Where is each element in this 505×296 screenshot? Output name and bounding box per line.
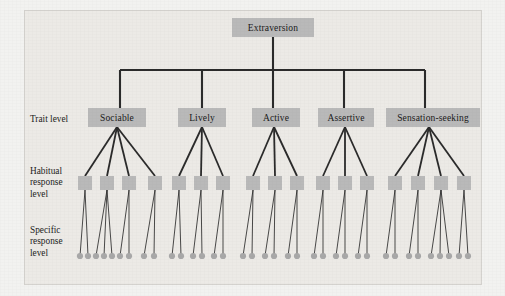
- specific-response-dot-4-1-1: [415, 253, 421, 259]
- specific-response-dot-0-2-0: [117, 253, 123, 259]
- node-habitual-response-3-0[interactable]: [316, 176, 330, 190]
- habitual-0-0-specific-link-1: [85, 190, 88, 256]
- specific-response-dot-3-2-1: [364, 253, 370, 259]
- specific-response-dot-4-0-1: [392, 253, 398, 259]
- specific-response-dot-1-1-0: [190, 253, 196, 259]
- node-habitual-response-3-2[interactable]: [360, 176, 374, 190]
- specific-response-dot-1-1-1: [199, 253, 205, 259]
- node-habitual-response-4-0[interactable]: [388, 176, 402, 190]
- specific-response-dot-0-1-2: [109, 253, 115, 259]
- habitual-0-1-specific-link-2: [107, 190, 112, 256]
- node-habitual-response-2-0[interactable]: [246, 176, 260, 190]
- habitual-2-1-specific-link-0: [265, 190, 275, 256]
- habitual-4-0-specific-link-0: [386, 190, 395, 256]
- trait-3-habitual-link-0: [323, 127, 345, 176]
- habitual-3-2-specific-link-0: [358, 190, 367, 256]
- node-habitual-response-0-0[interactable]: [78, 176, 92, 190]
- specific-response-dot-0-3-1: [151, 253, 157, 259]
- node-trait-sensation-seeking[interactable]: Sensation-seeking: [386, 108, 480, 127]
- specific-response-dot-4-1-0: [406, 253, 412, 259]
- habitual-3-1-specific-link-0: [336, 190, 345, 256]
- trait-2-habitual-link-1: [274, 127, 275, 176]
- node-habitual-response-1-0[interactable]: [172, 176, 186, 190]
- specific-response-dot-4-2-2: [446, 253, 452, 259]
- node-habitual-response-1-2[interactable]: [216, 176, 230, 190]
- habitual-4-3-specific-link-1: [464, 190, 468, 256]
- node-habitual-response-2-2[interactable]: [290, 176, 304, 190]
- specific-response-dot-1-0-0: [169, 253, 175, 259]
- trait-2-habitual-link-2: [274, 127, 297, 176]
- habitual-2-0-specific-link-0: [243, 190, 253, 256]
- node-habitual-response-2-1[interactable]: [268, 176, 282, 190]
- specific-response-dot-0-0-0: [77, 253, 83, 259]
- specific-response-dot-2-2-0: [285, 253, 291, 259]
- specific-response-dot-0-1-1: [101, 253, 107, 259]
- node-trait-lively[interactable]: Lively: [178, 108, 226, 127]
- habitual-1-1-specific-link-0: [193, 190, 201, 256]
- node-habitual-response-0-1[interactable]: [100, 176, 114, 190]
- specific-response-dot-2-0-1: [249, 253, 255, 259]
- habitual-2-2-specific-link-0: [288, 190, 297, 256]
- habitual-4-1-specific-link-0: [409, 190, 418, 256]
- habitual-3-0-specific-link-0: [314, 190, 323, 256]
- habitual-1-1-specific-link-1: [201, 190, 202, 256]
- habitual-0-3-specific-link-0: [144, 190, 155, 256]
- trait-1-habitual-link-1: [201, 127, 202, 176]
- habitual-1-2-specific-link-0: [214, 190, 223, 256]
- specific-response-dot-1-2-0: [211, 253, 217, 259]
- trait-1-habitual-link-2: [202, 127, 223, 176]
- node-trait-label: Sensation-seeking: [397, 113, 469, 123]
- specific-response-dot-4-3-1: [465, 253, 471, 259]
- node-habitual-response-0-2[interactable]: [122, 176, 136, 190]
- habitual-4-2-specific-link-2: [441, 190, 449, 256]
- node-habitual-response-4-3[interactable]: [457, 176, 471, 190]
- specific-response-dot-4-2-0: [428, 253, 434, 259]
- node-trait-sociable[interactable]: Sociable: [88, 108, 146, 127]
- specific-response-dot-3-0-1: [320, 253, 326, 259]
- specific-response-dot-3-1-0: [333, 253, 339, 259]
- habitual-0-2-specific-link-0: [120, 190, 129, 256]
- node-trait-label: Assertive: [327, 113, 364, 123]
- node-trait-assertive[interactable]: Assertive: [318, 108, 374, 127]
- habitual-0-3-specific-link-1: [154, 190, 155, 256]
- habitual-4-2-specific-link-0: [431, 190, 441, 256]
- habitual-1-0-specific-link-0: [172, 190, 179, 256]
- figure-container: ExtraversionSociableLivelyActiveAssertiv…: [0, 0, 505, 296]
- specific-response-dot-2-0-0: [240, 253, 246, 259]
- node-habitual-response-4-2[interactable]: [434, 176, 448, 190]
- node-extraversion-label: Extraversion: [248, 23, 298, 33]
- node-habitual-response-3-1[interactable]: [338, 176, 352, 190]
- node-extraversion[interactable]: Extraversion: [232, 18, 314, 37]
- node-trait-active[interactable]: Active: [252, 108, 300, 127]
- row-label-habitual-response-level: Habitual response level: [30, 166, 63, 200]
- habitual-0-0-specific-link-0: [80, 190, 85, 256]
- habitual-1-0-specific-link-1: [179, 190, 181, 256]
- node-habitual-response-0-3[interactable]: [148, 176, 162, 190]
- node-trait-label: Lively: [189, 113, 215, 123]
- specific-response-dot-4-0-0: [383, 253, 389, 259]
- specific-response-dot-4-3-0: [456, 253, 462, 259]
- row-label-trait-level: Trait level: [30, 114, 68, 125]
- node-habitual-response-1-1[interactable]: [194, 176, 208, 190]
- habitual-4-2-specific-link-1: [440, 190, 441, 256]
- specific-response-dot-0-3-0: [141, 253, 147, 259]
- habitual-2-1-specific-link-1: [274, 190, 275, 256]
- habitual-2-0-specific-link-1: [252, 190, 253, 256]
- node-trait-label: Active: [263, 113, 289, 123]
- specific-response-dot-2-1-0: [262, 253, 268, 259]
- specific-response-dot-3-2-0: [355, 253, 361, 259]
- specific-response-dot-0-1-0: [93, 253, 99, 259]
- specific-response-dot-1-0-1: [178, 253, 184, 259]
- specific-response-dot-2-2-1: [294, 253, 300, 259]
- specific-response-dot-3-1-1: [342, 253, 348, 259]
- specific-response-dot-4-2-1: [437, 253, 443, 259]
- trait-1-habitual-link-0: [179, 127, 202, 176]
- habitual-4-3-specific-link-0: [459, 190, 464, 256]
- specific-response-dot-0-2-1: [126, 253, 132, 259]
- row-label-specific-response-level: Specific response level: [30, 225, 63, 259]
- trait-3-habitual-link-2: [345, 127, 367, 176]
- node-habitual-response-4-1[interactable]: [411, 176, 425, 190]
- specific-response-dot-1-2-1: [220, 253, 226, 259]
- specific-response-dot-0-0-1: [85, 253, 91, 259]
- node-trait-label: Sociable: [100, 113, 134, 123]
